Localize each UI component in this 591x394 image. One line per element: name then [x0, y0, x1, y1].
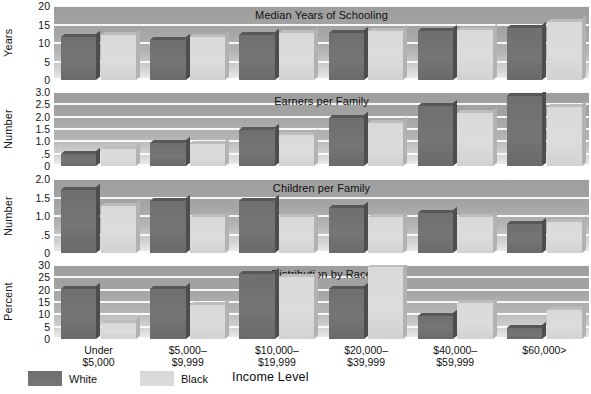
- bar-front-face: [101, 323, 136, 339]
- bar-white-1: [61, 154, 96, 166]
- x-tick-line: $9,999: [169, 356, 207, 368]
- y-axis-ticks: 0.51.01.52.02.53.0: [20, 92, 50, 166]
- bar-front-face: [190, 37, 225, 80]
- panel-title: Earners per Family: [274, 95, 369, 107]
- bar-white-3: [239, 35, 274, 80]
- bar-white-4: [329, 208, 364, 253]
- bar-white-2: [150, 40, 185, 80]
- bar-black-4: [368, 267, 403, 339]
- bar-front-face: [368, 217, 403, 253]
- y-tick-label: 2.0: [22, 111, 50, 122]
- bar-side-face: [403, 265, 407, 339]
- bar-front-face: [150, 143, 185, 166]
- bar-front-face: [239, 274, 274, 339]
- bar-side-face: [403, 25, 407, 80]
- y-tick-label: 3.0: [22, 87, 50, 98]
- y-tick-label: 20: [22, 1, 50, 12]
- bar-front-face: [239, 35, 274, 80]
- x-tick-label-6: $60,000>: [522, 344, 566, 356]
- bar-black-5: [457, 30, 492, 80]
- x-tick-label-3: $10,000–$19,999: [255, 344, 299, 368]
- bar-black-3: [279, 135, 314, 166]
- bar-black-4: [368, 31, 403, 80]
- bar-front-face: [150, 40, 185, 80]
- bar-front-face: [457, 217, 492, 253]
- bar-front-face: [418, 31, 453, 80]
- bar-black-3: [279, 277, 314, 339]
- y-tick-label: 5: [22, 321, 50, 332]
- x-tick-label-4: $20,000–$39,999: [344, 344, 388, 368]
- bar-white-5: [418, 106, 453, 166]
- bar-white-2: [150, 289, 185, 339]
- legend-swatch-black: [140, 371, 174, 386]
- bar-side-face: [582, 216, 586, 253]
- bar-white-2: [150, 143, 185, 166]
- legend-swatch-white: [28, 371, 62, 386]
- bar-front-face: [150, 201, 185, 253]
- multi-panel-bar-chart: Years05101520Median Years of SchoolingNu…: [0, 0, 591, 394]
- x-axis-title: Income Level: [232, 370, 309, 384]
- y-tick-label: 0: [22, 75, 50, 86]
- bar-front-face: [457, 303, 492, 339]
- bar-black-3: [279, 217, 314, 253]
- bar-front-face: [368, 31, 403, 80]
- bar-white-1: [61, 289, 96, 339]
- bar-white-4: [329, 118, 364, 166]
- bar-front-face: [507, 28, 542, 80]
- x-tick-label-2: $5,000–$9,999: [169, 344, 207, 368]
- y-tick-label: .5: [22, 148, 50, 159]
- gridline: [54, 289, 589, 291]
- x-tick-label-1: Under$5,000: [83, 344, 115, 368]
- bar-black-2: [190, 305, 225, 339]
- bar-black-2: [190, 37, 225, 80]
- y-tick-label: 1.5: [22, 192, 50, 203]
- bar-black-6: [547, 107, 582, 166]
- bar-side-face: [225, 211, 229, 253]
- bar-black-1: [101, 35, 136, 80]
- panel-1: Years05101520Median Years of Schooling: [0, 6, 591, 80]
- bar-black-6: [547, 222, 582, 253]
- bar-side-face: [314, 270, 318, 339]
- bar-side-face: [403, 117, 407, 166]
- bar-side-face: [493, 23, 497, 80]
- bar-black-1: [101, 323, 136, 339]
- bar-black-2: [190, 144, 225, 166]
- bar-side-face: [493, 107, 497, 166]
- bar-white-1: [61, 37, 96, 80]
- x-tick-line: $10,000–: [255, 344, 299, 356]
- panel-2: Number0.51.01.52.02.53.0Earners per Fami…: [0, 92, 591, 166]
- bar-black-5: [457, 113, 492, 166]
- bar-front-face: [279, 217, 314, 253]
- bar-front-face: [507, 96, 542, 166]
- bar-black-4: [368, 123, 403, 166]
- legend-label-white: White: [69, 373, 97, 385]
- panel-title: Children per Family: [273, 182, 370, 194]
- bar-front-face: [507, 328, 542, 339]
- y-tick-label: 25: [22, 272, 50, 283]
- bar-front-face: [61, 190, 96, 253]
- bar-front-face: [547, 107, 582, 166]
- bar-front-face: [279, 277, 314, 339]
- bar-front-face: [279, 33, 314, 80]
- bar-front-face: [61, 289, 96, 339]
- bar-front-face: [239, 130, 274, 166]
- bar-front-face: [329, 208, 364, 253]
- bar-white-6: [507, 328, 542, 339]
- bar-front-face: [368, 267, 403, 339]
- bar-white-5: [418, 316, 453, 339]
- bar-front-face: [368, 123, 403, 166]
- bar-front-face: [418, 213, 453, 253]
- x-tick-line: $5,000–: [169, 344, 207, 356]
- bar-side-face: [136, 317, 140, 339]
- y-tick-label: 1.0: [22, 136, 50, 147]
- plot-area: Median Years of Schooling: [54, 6, 589, 80]
- bar-front-face: [279, 135, 314, 166]
- panel-title: Median Years of Schooling: [255, 9, 388, 21]
- bar-white-3: [239, 274, 274, 339]
- y-axis-ticks: 0.51.01.52.0: [20, 179, 50, 253]
- x-tick-line: $5,000: [83, 356, 115, 368]
- bar-front-face: [329, 118, 364, 166]
- bar-black-5: [457, 217, 492, 253]
- bar-black-1: [101, 149, 136, 166]
- x-tick-line: $39,999: [344, 356, 388, 368]
